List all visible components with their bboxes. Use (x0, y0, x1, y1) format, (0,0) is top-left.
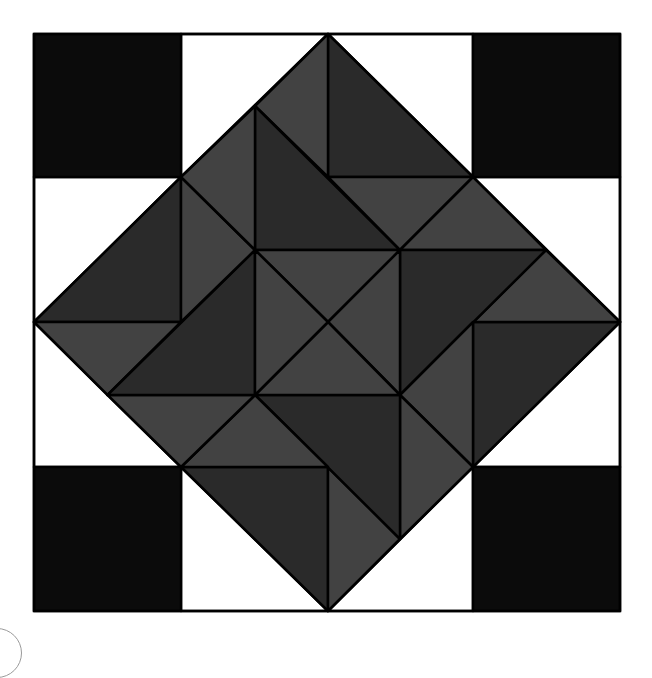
corner-square-bottom-left (34, 467, 181, 611)
corner-square-top-right (473, 34, 620, 177)
corner-square-bottom-right (473, 467, 620, 611)
corner-square-top-left (34, 34, 181, 177)
